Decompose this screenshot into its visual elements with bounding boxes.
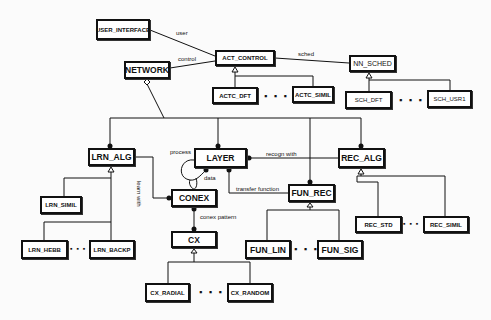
ellipsis-fun: ▪ ▪ ▪ [294, 244, 319, 254]
class-rec-alg: REC_ALG [338, 148, 385, 168]
class-lrn-backp: LRN_BACKP [89, 240, 135, 259]
ellipsis-sch: ▪ ▪ ▪ [399, 95, 424, 105]
class-rec-simil: REC_SIMIL [423, 216, 469, 233]
class-layer: LAYER [194, 148, 247, 168]
label-transfer-function: transfer function [236, 186, 279, 192]
ellipsis-rec: ▪ ▪ ▪ [403, 220, 419, 227]
label-data: data [204, 175, 216, 181]
class-cx: CX [171, 231, 217, 248]
class-actc-dft: ACTC_DFT [212, 87, 258, 104]
ellipsis-lrn: ▪ ▪ ▪ [70, 245, 86, 252]
label-process: process [170, 149, 191, 155]
class-cx-radial: CX_RADIAL [145, 283, 190, 302]
class-fun-lin: FUN_LIN [245, 240, 291, 259]
class-fun-rec: FUN_REC [288, 184, 335, 202]
label-learn-with: learn with [136, 181, 142, 207]
class-diagram: USER_INTERFACE ACT_CONTROL NETWORK NN_SC… [0, 0, 491, 320]
label-control: control [178, 56, 196, 62]
label-recogn-with: recogn with [266, 151, 297, 157]
class-fun-sig: FUN_SIG [317, 240, 363, 259]
class-actc-simil: ACTC_SIMIL [292, 86, 334, 103]
label-sched: sched [298, 51, 314, 57]
class-conex: CONEX [171, 189, 217, 207]
label-conex-pattern: conex pattern [200, 214, 236, 220]
class-user-interface: USER_INTERFACE [96, 19, 150, 40]
class-rec-std: REC_STD [355, 216, 402, 233]
label-user: user [176, 30, 188, 36]
class-lrn-alg: LRN_ALG [88, 148, 135, 166]
class-cx-random: CX_RANDOM [227, 283, 273, 302]
class-lrn-simil: LRN_SIMIL [40, 196, 82, 214]
class-sch-dft: SCH_DFT [345, 91, 392, 109]
class-network: NETWORK [124, 61, 170, 79]
class-sch-usr1: SCH_USR1 [427, 90, 472, 108]
class-nn-sched: NN_SCHED [349, 55, 396, 72]
ellipsis-actc: ▪ ▪ ▪ [264, 91, 289, 101]
class-lrn-hebb: LRN_HEBB [21, 240, 68, 259]
ellipsis-cx: ▪ ▪ ▪ [199, 287, 224, 297]
class-act-control: ACT_CONTROL [215, 50, 275, 66]
